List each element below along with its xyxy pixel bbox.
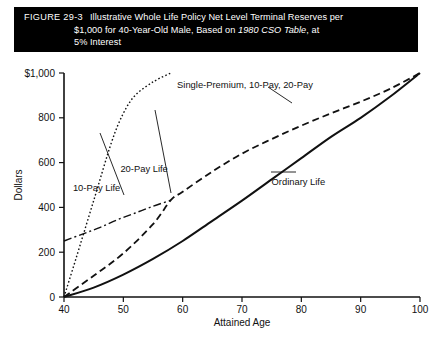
x-tick-label: 100 xyxy=(412,304,429,315)
x-axis-title: Attained Age xyxy=(214,317,271,328)
caption-line-2: $1,000 for 40-Year-Old Male, Based on 19… xyxy=(24,24,410,37)
annotation-label: Ordinary Life xyxy=(272,176,326,187)
chart-plot-area: 0200400600800$1,000 405060708090100 Doll… xyxy=(0,55,444,340)
x-tick-label: 90 xyxy=(355,304,367,315)
annotation-label: Single-Premium, 10-Pay, 20-Pay xyxy=(177,79,313,90)
caption-line-1: FIGURE 29-3Illustrative Whole Life Polic… xyxy=(24,11,410,24)
caption-text-2b: , at xyxy=(306,25,319,35)
x-tick-label: 50 xyxy=(118,304,130,315)
caption-text-2-italic: 1980 CSO Table xyxy=(238,25,306,35)
x-tick-label: 40 xyxy=(58,304,70,315)
caption-text-3: 5% Interest xyxy=(74,37,121,47)
chart-annotations: Single-Premium, 10-Pay, 20-Pay20-Pay Lif… xyxy=(73,79,325,193)
y-tick-label: 800 xyxy=(38,112,55,123)
annotation-label: 20-Pay Life xyxy=(120,163,167,174)
y-axis-title: Dollars xyxy=(13,169,24,200)
y-tick-label: 200 xyxy=(38,247,55,258)
x-tick-label: 80 xyxy=(296,304,308,315)
caption-text-1: Illustrative Whole Life Policy Net Level… xyxy=(90,12,343,22)
annotation-label: 10-Pay Life xyxy=(73,182,120,193)
x-tick-label: 70 xyxy=(236,304,248,315)
y-tick-label: 600 xyxy=(38,157,55,168)
x-axis-ticks: 405060708090100 xyxy=(58,297,428,315)
reserves-line-chart: 0200400600800$1,000 405060708090100 Doll… xyxy=(0,55,444,340)
y-tick-label: $1,000 xyxy=(24,68,55,79)
series-line-10-pay-life xyxy=(64,200,171,241)
figure-container: FIGURE 29-3Illustrative Whole Life Polic… xyxy=(0,0,444,340)
x-tick-label: 60 xyxy=(177,304,189,315)
y-tick-label: 0 xyxy=(49,292,55,303)
figure-number: FIGURE 29-3 xyxy=(24,12,90,22)
y-axis-ticks: 0200400600800$1,000 xyxy=(24,68,64,303)
figure-caption-bar: FIGURE 29-3Illustrative Whole Life Polic… xyxy=(14,7,418,52)
caption-line-3: 5% Interest xyxy=(24,36,410,49)
y-tick-label: 400 xyxy=(38,202,55,213)
caption-text-2a: $1,000 for 40-Year-Old Male, Based on xyxy=(74,25,238,35)
